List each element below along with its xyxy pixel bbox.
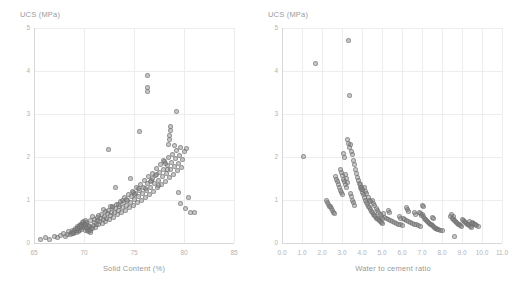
scatter-point — [406, 209, 411, 214]
x-tick-label: 75 — [122, 249, 146, 256]
chart-panel-left: UCS (MPa) 0123456570758085 Solid Content… — [0, 0, 257, 294]
gridline-vertical — [302, 28, 303, 243]
scatter-point — [172, 143, 177, 148]
scatter-point — [421, 204, 426, 209]
left-y-axis-label: UCS (MPa) — [20, 10, 60, 19]
scatter-point — [165, 167, 170, 172]
gridline-vertical — [342, 28, 343, 243]
scatter-point — [346, 38, 351, 43]
scatter-point — [88, 218, 93, 223]
scatter-point — [168, 124, 173, 129]
scatter-point — [137, 129, 142, 134]
scatter-point — [452, 234, 457, 239]
scatter-point — [110, 204, 115, 209]
scatter-point — [178, 201, 183, 206]
figure-container: UCS (MPa) 0123456570758085 Solid Content… — [0, 0, 515, 294]
scatter-point — [347, 93, 352, 98]
scatter-point — [186, 195, 191, 200]
y-tick-label: 4 — [266, 67, 278, 74]
scatter-point — [38, 237, 43, 242]
y-tick-label: 4 — [18, 67, 30, 74]
y-tick-label: 2 — [266, 153, 278, 160]
scatter-point — [75, 226, 80, 231]
scatter-point — [145, 89, 150, 94]
left-plot-area: 0123456570758085 — [34, 28, 234, 243]
right-x-axis-label: Water to cement ratio — [338, 264, 448, 273]
scatter-point — [332, 211, 337, 216]
scatter-point — [419, 213, 424, 218]
gridline-vertical — [402, 28, 403, 243]
gridline-vertical — [462, 28, 463, 243]
scatter-point — [70, 231, 75, 236]
gridline-vertical — [482, 28, 483, 243]
gridline-vertical — [234, 28, 235, 243]
scatter-point — [342, 155, 347, 160]
scatter-point — [166, 142, 171, 147]
scatter-point — [176, 190, 181, 195]
scatter-point — [167, 133, 172, 138]
gridline-horizontal — [282, 200, 502, 201]
gridline-vertical — [502, 28, 503, 243]
scatter-point — [171, 172, 176, 177]
y-tick-label: 0 — [266, 239, 278, 246]
scatter-point — [440, 228, 445, 233]
scatter-point — [184, 146, 189, 151]
scatter-point — [116, 202, 121, 207]
gridline-horizontal — [282, 71, 502, 72]
scatter-point — [313, 61, 318, 66]
scatter-point — [128, 176, 133, 181]
scatter-point — [180, 157, 185, 162]
x-axis-line — [34, 243, 234, 244]
gridline-vertical — [84, 28, 85, 243]
y-tick-label: 3 — [18, 110, 30, 117]
y-tick-label: 5 — [18, 24, 30, 31]
chart-panel-right: UCS (MPa) 0123450.01.02.03.04.05.06.07.0… — [258, 0, 515, 294]
scatter-point — [96, 213, 101, 218]
scatter-point — [327, 204, 332, 209]
scatter-point — [301, 154, 306, 159]
scatter-point — [124, 197, 129, 202]
scatter-point — [174, 109, 179, 114]
scatter-point — [380, 221, 385, 226]
scatter-point — [47, 237, 52, 242]
y-tick-label: 1 — [266, 196, 278, 203]
scatter-point — [360, 187, 365, 192]
scatter-point — [380, 216, 385, 221]
gridline-vertical — [322, 28, 323, 243]
gridline-horizontal — [282, 157, 502, 158]
scatter-point — [192, 210, 197, 215]
scatter-point — [368, 199, 373, 204]
scatter-point — [163, 179, 168, 184]
scatter-point — [183, 206, 188, 211]
scatter-point — [145, 73, 150, 78]
x-tick-label: 85 — [222, 249, 246, 256]
scatter-point — [156, 183, 161, 188]
gridline-horizontal — [282, 114, 502, 115]
scatter-point — [113, 185, 118, 190]
scatter-point — [163, 161, 168, 166]
scatter-point — [136, 186, 141, 191]
scatter-point — [418, 224, 423, 229]
scatter-point — [106, 147, 111, 152]
scatter-point — [431, 216, 436, 221]
y-axis-line — [34, 28, 35, 244]
scatter-point — [103, 209, 108, 214]
scatter-point — [143, 186, 148, 191]
y-axis-line — [282, 28, 283, 244]
x-tick-label: 70 — [72, 249, 96, 256]
y-tick-label: 3 — [266, 110, 278, 117]
y-tick-label: 0 — [18, 239, 30, 246]
right-y-axis-label: UCS (MPa) — [268, 10, 308, 19]
scatter-point — [352, 203, 357, 208]
scatter-point — [83, 222, 88, 227]
scatter-point — [132, 192, 137, 197]
x-tick-label: 80 — [172, 249, 196, 256]
gridline-vertical — [134, 28, 135, 243]
scatter-point — [150, 176, 155, 181]
scatter-point — [400, 223, 405, 228]
y-tick-label: 5 — [266, 24, 278, 31]
left-x-axis-label: Solid Content (%) — [84, 264, 184, 273]
gridline-horizontal — [282, 28, 502, 29]
y-tick-label: 1 — [18, 196, 30, 203]
scatter-point — [387, 210, 392, 215]
